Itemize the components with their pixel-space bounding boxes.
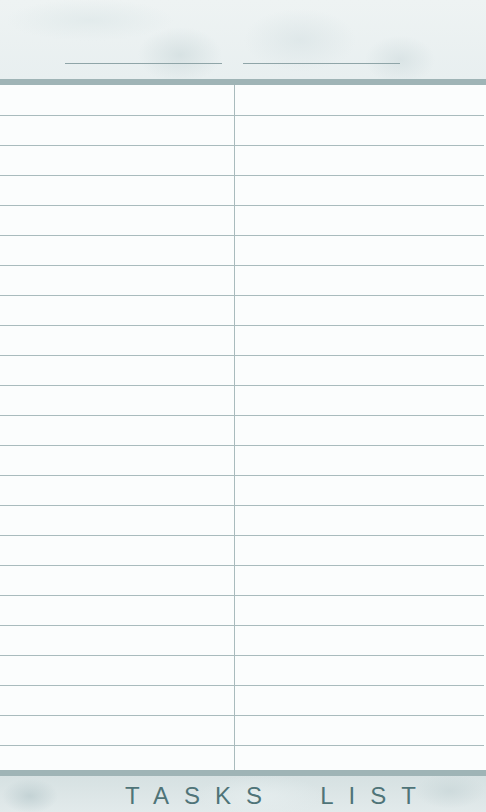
task-grid [0, 85, 486, 770]
task-cell-left[interactable] [0, 265, 234, 294]
task-cell-right[interactable] [235, 685, 484, 714]
task-cell-left[interactable] [0, 295, 234, 324]
task-cell-right[interactable] [235, 505, 484, 534]
task-cell-left[interactable] [0, 535, 234, 564]
task-cell-left[interactable] [0, 415, 234, 444]
task-cell-right[interactable] [235, 235, 484, 264]
task-cell-left[interactable] [0, 235, 234, 264]
task-cell-right[interactable] [235, 85, 484, 114]
task-cell-left[interactable] [0, 565, 234, 594]
task-cell-left[interactable] [0, 115, 234, 144]
task-cell-left[interactable] [0, 505, 234, 534]
task-cell-right[interactable] [235, 625, 484, 654]
task-cell-left[interactable] [0, 445, 234, 474]
blank-field-line-1[interactable] [65, 63, 222, 64]
task-cell-right[interactable] [235, 355, 484, 384]
task-cell-left[interactable] [0, 625, 234, 654]
task-cell-right[interactable] [235, 475, 484, 504]
task-cell-left[interactable] [0, 385, 234, 414]
task-cell-left[interactable] [0, 475, 234, 504]
task-cell-right[interactable] [235, 145, 484, 174]
task-cell-left[interactable] [0, 655, 234, 684]
task-cell-left[interactable] [0, 85, 234, 114]
task-cell-left[interactable] [0, 175, 234, 204]
task-cell-right[interactable] [235, 565, 484, 594]
task-cell-left[interactable] [0, 715, 234, 744]
task-cell-left[interactable] [0, 325, 234, 354]
task-cell-left[interactable] [0, 205, 234, 234]
blank-field-line-2[interactable] [243, 63, 400, 64]
task-cell-right[interactable] [235, 175, 484, 204]
task-cell-right[interactable] [235, 265, 484, 294]
task-cell-right[interactable] [235, 325, 484, 354]
task-cell-right[interactable] [235, 535, 484, 564]
task-cell-right[interactable] [235, 415, 484, 444]
task-cell-right[interactable] [235, 655, 484, 684]
task-cell-right[interactable] [235, 385, 484, 414]
task-cell-right[interactable] [235, 205, 484, 234]
task-cell-left[interactable] [0, 145, 234, 174]
task-cell-right[interactable] [235, 445, 484, 474]
footer-title: TASKS LIST [125, 782, 431, 810]
task-cell-right[interactable] [235, 715, 484, 744]
task-cell-left[interactable] [0, 355, 234, 384]
task-cell-left[interactable] [0, 685, 234, 714]
decorative-header [0, 0, 486, 79]
decorative-footer: TASKS LIST [0, 776, 486, 812]
task-cell-right[interactable] [235, 595, 484, 624]
task-cell-right[interactable] [235, 115, 484, 144]
task-cell-right[interactable] [235, 295, 484, 324]
task-cell-left[interactable] [0, 595, 234, 624]
